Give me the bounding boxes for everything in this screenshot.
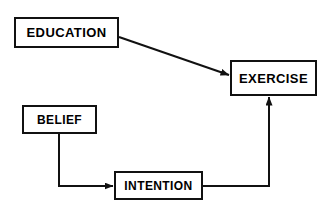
edge-belief-to-intention (59, 134, 113, 186)
node-belief: BELIEF (22, 105, 97, 134)
edge-education-to-exercise (119, 37, 229, 75)
node-education-label: EDUCATION (27, 25, 107, 40)
node-exercise: EXERCISE (230, 60, 317, 96)
node-intention: INTENTION (114, 171, 203, 200)
node-education: EDUCATION (14, 17, 119, 48)
flow-diagram: EDUCATION EXERCISE BELIEF INTENTION (0, 0, 330, 215)
node-exercise-label: EXERCISE (239, 71, 308, 86)
node-belief-label: BELIEF (37, 113, 82, 127)
node-intention-label: INTENTION (124, 179, 192, 193)
edge-intention-to-exercise (203, 97, 269, 186)
